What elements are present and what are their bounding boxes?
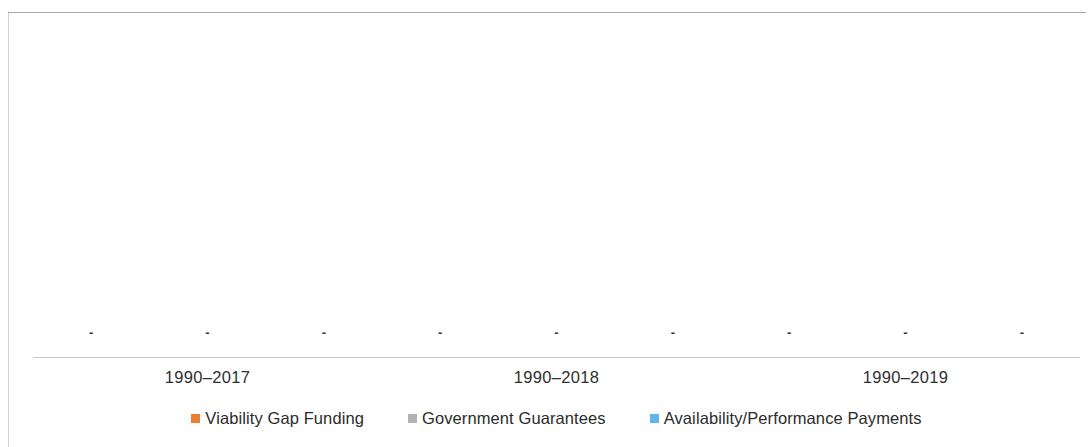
legend-item-government-guarantees[interactable]: Government Guarantees xyxy=(408,409,606,428)
bar-value-label: - xyxy=(903,326,907,357)
figure-left-border xyxy=(8,12,9,447)
bar-value-label: - xyxy=(554,326,558,357)
legend-swatch-icon xyxy=(408,414,417,423)
bar-group: - - - xyxy=(33,14,382,357)
bar-group: - - - xyxy=(731,14,1080,357)
bar-group: - - - xyxy=(382,14,731,357)
bar-groups: - - - - - - xyxy=(33,14,1080,357)
bar-value-label: - xyxy=(787,326,791,357)
legend-swatch-icon xyxy=(650,414,659,423)
bar-slot[interactable]: - xyxy=(731,14,847,357)
legend-swatch-icon xyxy=(191,414,200,423)
bar-value-label: - xyxy=(89,326,93,357)
category-label: 1990–2019 xyxy=(731,368,1080,387)
bar-slot[interactable]: - xyxy=(266,14,382,357)
legend-item-viability-gap-funding[interactable]: Viability Gap Funding xyxy=(191,409,364,428)
bar-slot[interactable]: - xyxy=(847,14,963,357)
chart-legend: Viability Gap Funding Government Guarant… xyxy=(33,409,1080,428)
bar-slot[interactable]: - xyxy=(33,14,149,357)
category-axis-labels: 1990–2017 1990–2018 1990–2019 xyxy=(33,368,1080,387)
bar-value-label: - xyxy=(322,326,326,357)
category-label: 1990–2017 xyxy=(33,368,382,387)
category-label: 1990–2018 xyxy=(382,368,731,387)
legend-label: Government Guarantees xyxy=(422,409,606,428)
bar-value-label: - xyxy=(1020,326,1024,357)
bar-slot[interactable]: - xyxy=(964,14,1080,357)
legend-label: Viability Gap Funding xyxy=(205,409,364,428)
figure-top-border xyxy=(8,12,1086,13)
bar-slot[interactable]: - xyxy=(615,14,731,357)
legend-label: Availability/Performance Payments xyxy=(664,409,922,428)
bar-value-label: - xyxy=(671,326,675,357)
chart-figure: - - - - - - xyxy=(0,0,1091,447)
bar-value-label: - xyxy=(205,326,209,357)
legend-item-availability-performance-payments[interactable]: Availability/Performance Payments xyxy=(650,409,922,428)
bar-value-label: - xyxy=(438,326,442,357)
category-axis-line xyxy=(33,357,1080,358)
bar-slot[interactable]: - xyxy=(498,14,614,357)
bar-slot[interactable]: - xyxy=(382,14,498,357)
bar-slot[interactable]: - xyxy=(149,14,265,357)
